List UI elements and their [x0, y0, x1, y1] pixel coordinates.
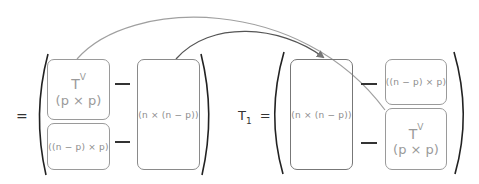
right-nxn-p-block: (n × (n − p)) — [290, 59, 353, 170]
left-tv-block: TV (p × p) — [47, 59, 110, 120]
left-equals-sign: = — [16, 108, 28, 124]
nnp-dims: (n × (n − p)) — [291, 110, 351, 120]
tv-dims: (p × p) — [56, 93, 102, 108]
right-paren-close — [454, 52, 463, 174]
arrow-nnp-swap — [176, 31, 323, 59]
tv-label: TV — [409, 121, 424, 143]
left-nxn-p-block: (n × (n − p)) — [137, 59, 200, 170]
nnp-dims: (n × (n − p)) — [138, 110, 198, 120]
right-paren-open — [275, 52, 284, 174]
left-paren-close — [201, 54, 209, 175]
left-bottom-block: ((n − p) × p) — [47, 123, 110, 170]
tv-label: TV — [71, 71, 86, 93]
bottom-dims: ((n − p) × p) — [48, 142, 108, 152]
dash-right-top — [361, 83, 377, 85]
tv-dims: (p × p) — [393, 142, 439, 157]
right-tv-block: TV (p × p) — [385, 108, 447, 170]
dash-left-bottom — [115, 141, 130, 143]
dash-left-top — [115, 83, 130, 85]
top-dims: ((n − p) × p) — [386, 77, 446, 87]
right-top-block: ((n − p) × p) — [385, 59, 447, 105]
t1-label: T1 = — [238, 108, 271, 126]
dash-right-bottom — [361, 142, 377, 144]
